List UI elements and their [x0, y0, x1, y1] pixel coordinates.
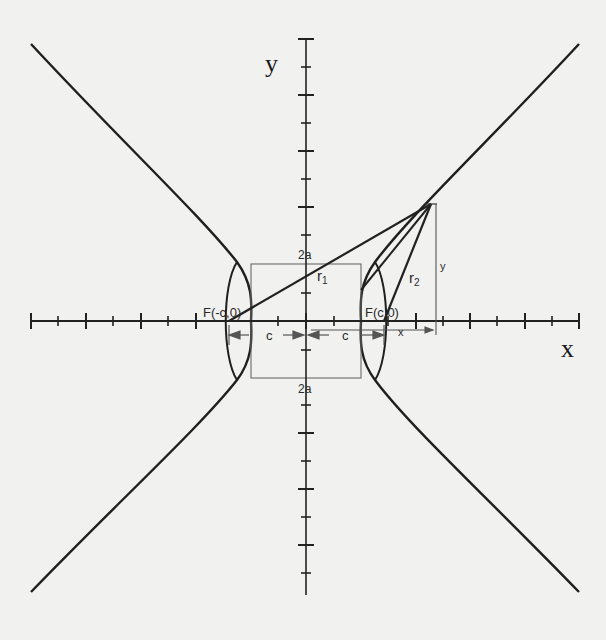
diagram-canvas: y x 2a 2a F(-c,0) F(c,0) r1 r2 c c x y	[0, 0, 606, 640]
asymptote-to-p	[361, 204, 431, 290]
x-axis-label: x	[561, 334, 574, 363]
r2-line	[384, 204, 431, 321]
y-dimension-label: y	[440, 260, 446, 272]
x-axis	[31, 313, 579, 329]
y-axis	[298, 38, 314, 595]
r1-label: r1	[317, 267, 328, 286]
x-dimension-label: x	[398, 326, 404, 338]
focus-left-label: F(-c,0)	[203, 305, 241, 320]
focal-radii	[229, 204, 431, 321]
two-a-top-label: 2a	[298, 248, 312, 262]
y-axis-label: y	[265, 49, 278, 78]
hyperbola-diagram: y x 2a 2a F(-c,0) F(c,0) r1 r2 c c x y	[0, 0, 606, 640]
c-right-label: c	[342, 328, 349, 343]
focus-right-label: F(c,0)	[365, 305, 399, 320]
c-left-label: c	[266, 328, 273, 343]
two-a-bottom-label: 2a	[298, 382, 312, 396]
x-dimension	[311, 327, 433, 333]
r1-line	[229, 204, 431, 321]
r2-label: r2	[409, 269, 420, 288]
